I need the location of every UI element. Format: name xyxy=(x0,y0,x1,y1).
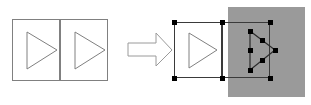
handle-midpoint-left-edge[interactable] xyxy=(248,48,253,53)
handle-bottom-left[interactable] xyxy=(172,76,177,81)
transformation-arrow-icon xyxy=(128,33,172,66)
handle-bottom-middle[interactable] xyxy=(220,76,225,81)
diagram-svg xyxy=(0,0,311,105)
handle-vertex-top-left[interactable] xyxy=(248,29,253,34)
handle-vertex-bottom-left[interactable] xyxy=(248,68,253,73)
gray-overlay xyxy=(228,7,305,97)
handle-vertex-right[interactable] xyxy=(273,48,278,53)
handle-bottom-right[interactable] xyxy=(268,76,273,81)
after-state[interactable] xyxy=(172,7,306,97)
handle-top-middle[interactable] xyxy=(220,20,225,25)
before-state[interactable] xyxy=(13,20,108,81)
handle-midpoint-lower-edge[interactable] xyxy=(260,58,265,63)
handle-top-left[interactable] xyxy=(172,20,177,25)
diagram-canvas xyxy=(0,0,311,105)
handle-top-right[interactable] xyxy=(268,20,273,25)
handle-midpoint-upper-edge[interactable] xyxy=(260,38,265,43)
